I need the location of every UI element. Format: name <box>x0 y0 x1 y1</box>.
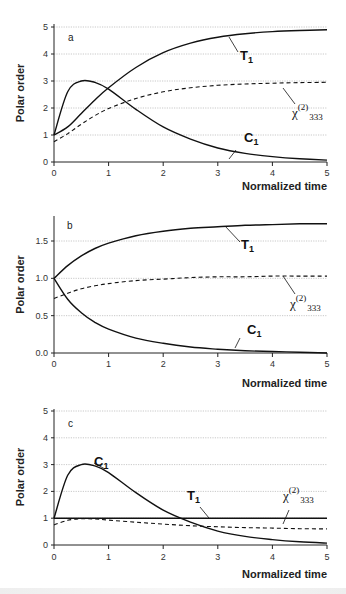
chi-333-label: χ(2)333 <box>289 293 321 313</box>
x-tick-label: 0 <box>51 359 56 369</box>
x-tick-label: 2 <box>161 552 166 562</box>
y-axis-label: Polar order <box>14 447 26 506</box>
curve-t1 <box>54 224 327 279</box>
panel-label: c <box>68 418 73 429</box>
x-tick-label: 3 <box>215 168 220 178</box>
y-axis-label: Polar order <box>14 254 26 313</box>
figure-canvas: 012345012345Polar orderNormalized timeaT… <box>0 0 346 594</box>
t1-label: T1 <box>241 237 254 254</box>
y-tick-label: 1 <box>43 130 48 140</box>
x-axis-label: Normalized time <box>242 377 327 389</box>
curve-chi-333 <box>54 276 327 298</box>
curve-chi-333 <box>54 82 327 142</box>
curve-c1 <box>54 464 327 543</box>
x-tick-label: 5 <box>324 359 329 369</box>
x-tick-label: 4 <box>270 359 275 369</box>
x-tick-label: 1 <box>106 168 111 178</box>
x-tick-label: 2 <box>161 359 166 369</box>
y-tick-label: 5 <box>43 22 48 32</box>
y-tick-label: 2 <box>43 103 48 113</box>
y-tick-label: 1.0 <box>35 273 48 283</box>
x-axis-label: Normalized time <box>242 568 327 580</box>
t1-pointer <box>225 226 240 242</box>
y-tick-label: 0.0 <box>35 348 48 358</box>
t1-label: T1 <box>240 48 253 65</box>
y-tick-label: 4 <box>43 433 48 443</box>
c1-pointer <box>235 338 240 348</box>
x-tick-label: 3 <box>215 359 220 369</box>
panel-label: b <box>67 220 73 231</box>
x-tick-label: 3 <box>215 552 220 562</box>
t1-pointer <box>200 507 209 518</box>
c1-label: C1 <box>244 130 258 147</box>
y-axis-label: Polar order <box>14 63 26 122</box>
panel-label: a <box>68 32 74 43</box>
chart-panel-b: 0.00.51.01.5012345Polar orderNormalized … <box>14 216 330 389</box>
y-tick-label: 5 <box>43 406 48 416</box>
x-tick-label: 5 <box>324 168 329 178</box>
chi-pointer <box>283 510 289 524</box>
chi-pointer <box>283 276 295 294</box>
y-tick-label: 1.5 <box>35 236 48 246</box>
caption-fragment <box>0 588 346 594</box>
chart-panel-c: 012345012345Polar orderNormalized timecT… <box>14 406 330 580</box>
y-tick-label: 2 <box>43 486 48 496</box>
x-tick-label: 0 <box>51 552 56 562</box>
t1-pointer <box>229 37 238 52</box>
x-tick-label: 4 <box>270 168 275 178</box>
x-tick-label: 2 <box>161 168 166 178</box>
curve-chi-333 <box>54 519 327 529</box>
y-tick-label: 0 <box>43 540 48 550</box>
x-tick-label: 0 <box>51 168 56 178</box>
y-tick-label: 3 <box>43 460 48 470</box>
c1-label: C1 <box>247 322 261 339</box>
y-tick-label: 4 <box>43 49 48 59</box>
chi-333-label: χ(2)333 <box>291 102 323 122</box>
y-tick-label: 0.5 <box>35 311 48 321</box>
x-tick-label: 5 <box>324 552 329 562</box>
x-tick-label: 1 <box>106 552 111 562</box>
y-tick-label: 1 <box>43 513 48 523</box>
y-tick-label: 3 <box>43 76 48 86</box>
x-axis-label: Normalized time <box>242 180 327 192</box>
chart-panel-a: 012345012345Polar orderNormalized timeaT… <box>14 22 330 192</box>
t1-label: T1 <box>187 488 200 505</box>
x-tick-label: 1 <box>106 359 111 369</box>
chi-333-label: χ(2)333 <box>282 485 314 505</box>
y-tick-label: 0 <box>43 157 48 167</box>
x-tick-label: 4 <box>270 552 275 562</box>
chi-pointer <box>283 88 295 104</box>
c1-label: C1 <box>94 454 108 471</box>
